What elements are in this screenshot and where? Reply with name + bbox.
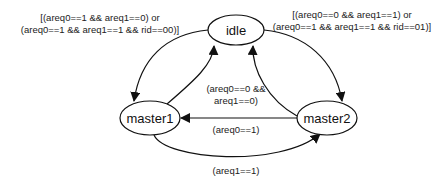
edge-idle-to-master1 — [134, 30, 208, 101]
edge-idle-to-master2 — [264, 30, 342, 101]
state-master1: master1 — [120, 101, 180, 135]
edge-label-line: (areq0==1 && areq1==1 && rid==00)] — [21, 24, 179, 35]
edge-master2-to-idle — [253, 46, 297, 116]
edge-label-line: [(areq0==0 && areq1==1) or — [292, 9, 411, 20]
edge-master1-to-idle — [167, 46, 214, 104]
edge-label-line: (areq1==1) — [212, 165, 259, 176]
state-label-idle: idle — [226, 23, 246, 38]
edge-label-line: [(areq0==1 && areq1==0) or — [40, 12, 159, 23]
edge-label-line: (areq0==1 && areq1==1 && rid==01)] — [273, 21, 431, 32]
label-master1-to-master2: (areq1==1) — [212, 165, 259, 176]
state-master2: master2 — [297, 101, 357, 135]
state-diagram: idle master1 master2 [(areq0==1 && areq1… — [0, 0, 445, 189]
edge-master1-to-master2 — [154, 134, 320, 157]
label-idle-to-master2: [(areq0==0 && areq1==1) or (areq0==1 && … — [273, 9, 431, 32]
label-master2-to-master1: (areq0==1) — [212, 124, 259, 135]
state-idle: idle — [208, 15, 264, 45]
edge-label-line: (areq0==1) — [212, 124, 259, 135]
state-label-master1: master1 — [127, 111, 174, 126]
label-idle-to-master1: [(areq0==1 && areq1==0) or (areq0==1 && … — [21, 12, 179, 35]
label-master1-to-idle: (areq0==0 && areq1==0) — [206, 83, 266, 106]
edge-label-line: areq1==0) — [214, 95, 258, 106]
edge-label-line: (areq0==0 && — [206, 83, 266, 94]
state-label-master2: master2 — [304, 111, 351, 126]
